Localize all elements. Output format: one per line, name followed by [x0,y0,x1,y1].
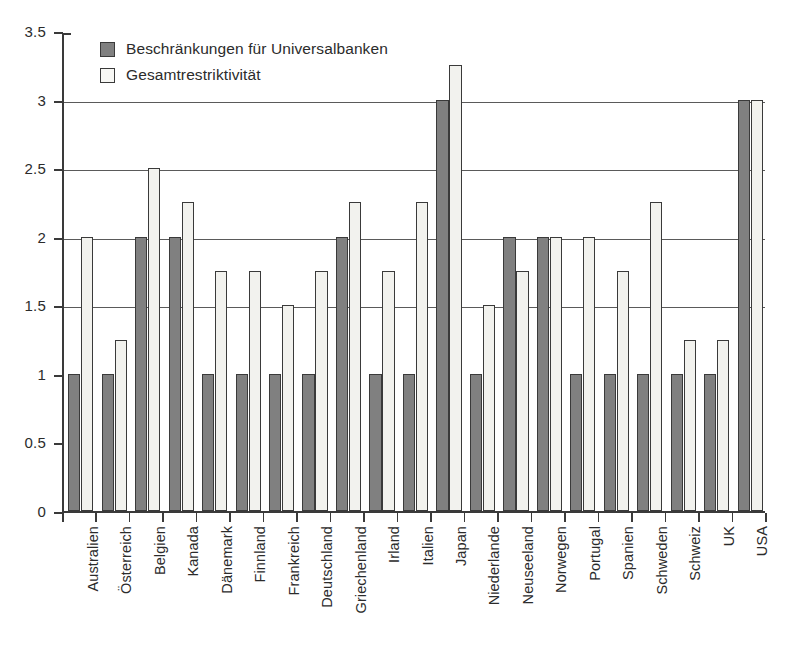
x-axis-tick-label: Norwegen [553,526,569,593]
x-axis-tick-mark [564,513,566,522]
bar-overall [483,305,495,511]
x-axis-tick-mark [330,513,332,522]
legend-label-overall: Gesamtrestriktivität [126,66,261,84]
y-axis-tick-mark [54,238,63,240]
bar-restrictions [436,100,448,511]
x-axis-tick-mark [229,513,231,522]
bar-overall [583,237,595,511]
bar-restrictions [369,374,381,511]
x-axis-tick-mark [665,513,667,522]
bar-restrictions [503,237,515,511]
x-axis-tick-mark [598,513,600,522]
x-axis-tick-mark [497,513,499,522]
bar-overall [684,340,696,511]
legend-item-restrictions: Beschränkungen für Universalbanken [100,36,388,62]
x-axis-tick-mark [531,513,533,522]
plot-area [62,33,765,513]
bar-overall [215,271,227,511]
y-axis-tick-label: 0.5 [0,434,46,451]
legend-label-restrictions: Beschränkungen für Universalbanken [126,40,388,58]
bar-restrictions [704,374,716,511]
bar-restrictions [169,237,181,511]
bar-overall [416,202,428,511]
bar-restrictions [269,374,281,511]
x-axis-tick-label: UK [721,526,737,546]
x-axis-tick-label: Japan [453,526,469,566]
x-axis-tick-mark [464,513,466,522]
x-axis-tick-label: Belgien [152,526,168,575]
bar-restrictions [570,374,582,511]
legend-item-overall: Gesamtrestriktivität [100,62,388,88]
x-axis-tick-label: Dänemark [219,526,235,594]
x-axis-tick-label: Österreich [118,526,134,594]
bar-overall [182,202,194,511]
y-axis-tick-mark [54,443,63,445]
y-axis-tick-label: 2.5 [0,160,46,177]
y-axis-tick-mark [54,101,63,103]
bar-restrictions [302,374,314,511]
bar-restrictions [470,374,482,511]
chart-root: 00.511.522.533.5 AustralienÖsterreichBel… [0,0,794,664]
bar-overall [115,340,127,511]
x-axis-tick-mark [698,513,700,522]
x-axis-tick-mark [129,513,131,522]
x-axis-tick-mark [631,513,633,522]
x-axis-tick-mark [62,513,64,522]
y-axis-top-cap [62,33,71,35]
bar-restrictions [102,374,114,511]
y-axis-tick-label: 1.5 [0,297,46,314]
x-axis-tick-mark [95,513,97,522]
bar-restrictions [637,374,649,511]
y-axis-tick-mark [54,32,63,34]
x-axis-tick-label: Deutschland [319,526,335,608]
bar-overall [148,168,160,511]
bar-restrictions [738,100,750,511]
x-axis-tick-label: Schweiz [687,526,703,581]
bar-restrictions [68,374,80,511]
bar-overall [349,202,361,511]
x-axis-tick-label: Australien [85,526,101,591]
legend-swatch-light-icon [100,68,115,83]
bar-overall [550,237,562,511]
x-axis-tick-mark [296,513,298,522]
y-axis-tick-mark [54,169,63,171]
bar-restrictions [403,374,415,511]
bar-overall [249,271,261,511]
x-axis-tick-label: Irland [386,526,402,563]
y-axis-tick-label: 2 [0,229,46,246]
x-axis-tick-mark [363,513,365,522]
x-axis-tick-label: USA [754,526,770,556]
bar-restrictions [236,374,248,511]
bar-overall [282,305,294,511]
y-axis-tick-label: 3 [0,92,46,109]
y-axis-tick-mark [54,375,63,377]
x-axis-tick-mark [263,513,265,522]
x-axis-tick-label: Portugal [587,526,603,581]
x-axis-tick-label: Niederlande [486,526,502,605]
bar-restrictions [537,237,549,511]
x-axis-tick-label: Frankreich [286,526,302,596]
bar-restrictions [135,237,147,511]
x-axis-tick-mark [397,513,399,522]
bar-overall [650,202,662,511]
bar-overall [516,271,528,511]
x-axis-tick-label: Schweden [654,526,670,595]
bar-restrictions [336,237,348,511]
y-axis-tick-label: 1 [0,366,46,383]
x-axis-tick-mark [162,513,164,522]
bar-overall [382,271,394,511]
x-axis-tick-mark [732,513,734,522]
bar-overall [751,100,763,511]
bar-restrictions [671,374,683,511]
y-axis-tick-mark [54,306,63,308]
x-axis-tick-label: Griechenland [353,526,369,613]
x-axis-tick-label: Italien [420,526,436,565]
x-axis-tick-mark [196,513,198,522]
x-axis-tick-label: Kanada [185,526,201,577]
legend-swatch-dark-icon [100,42,115,57]
bar-overall [315,271,327,511]
bar-restrictions [604,374,616,511]
x-axis-tick-mark [765,513,767,522]
bar-overall [449,65,461,511]
bar-overall [717,340,729,511]
